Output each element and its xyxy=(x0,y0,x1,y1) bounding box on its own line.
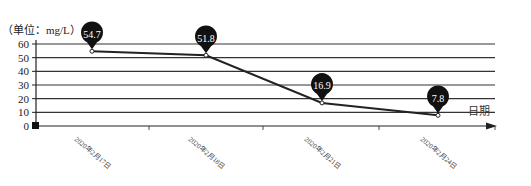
x-axis-label: 日期 xyxy=(468,105,490,117)
y-tick-label: 20 xyxy=(18,93,30,105)
data-label: 54.7 xyxy=(83,29,101,40)
unit-label: （单位：mg/L） xyxy=(2,23,81,36)
y-tick-label: 10 xyxy=(18,106,30,118)
data-label: 51.8 xyxy=(197,33,215,44)
x-axis-ticks: 2020年2月17日2020年2月18日2020年2月21日2020年2月24日 xyxy=(73,126,495,171)
y-tick-label: 0 xyxy=(24,120,30,132)
y-axis-ticks: 0102030405060 xyxy=(18,38,36,132)
y-tick-label: 60 xyxy=(18,38,30,50)
line-chart: 0102030405060 （单位：mg/L） 日期 2020年2月17日202… xyxy=(0,0,531,186)
y-tick-label: 50 xyxy=(18,52,30,64)
data-points: 54.751.816.97.8 xyxy=(81,21,449,117)
y-tick-label: 30 xyxy=(18,79,30,91)
origin-marker xyxy=(32,122,39,129)
x-tick-label: 2020年2月17日 xyxy=(73,135,114,171)
x-tick-label: 2020年2月18日 xyxy=(187,135,228,171)
x-tick-label: 2020年2月21日 xyxy=(303,135,344,171)
x-tick-label: 2020年2月24日 xyxy=(419,135,460,171)
y-tick-label: 40 xyxy=(18,65,30,77)
data-line xyxy=(92,51,438,115)
data-label: 7.8 xyxy=(432,93,445,104)
data-label: 16.9 xyxy=(313,80,331,91)
data-point: 51.8 xyxy=(195,25,217,57)
gridlines xyxy=(36,44,495,112)
data-point: 54.7 xyxy=(81,21,103,53)
